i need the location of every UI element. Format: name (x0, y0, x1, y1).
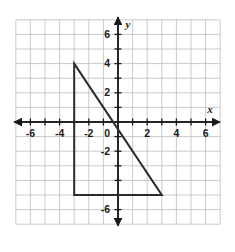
x-tick-label: -6 (26, 127, 35, 139)
x-tick-label: 2 (144, 127, 150, 139)
y-tick-label: -2 (101, 145, 110, 157)
x-tick-label: 4 (173, 127, 179, 139)
y-tick-label: 4 (104, 57, 110, 69)
x-tick-label: -2 (84, 127, 93, 139)
y-tick-label: 6 (104, 28, 110, 40)
coordinate-plane-figure: -6 -4 -2 2 4 6 6 4 2 -2 -6 0 x y (0, 0, 235, 252)
x-tick-label: 6 (203, 127, 209, 139)
x-axis-label: x (206, 103, 213, 115)
y-tick-label: -6 (101, 203, 110, 215)
coordinate-plane-svg: -6 -4 -2 2 4 6 6 4 2 -2 -6 0 x y (0, 0, 235, 252)
y-tick-label: 2 (104, 86, 110, 98)
y-axis-label: y (124, 18, 131, 30)
x-tick-label: -4 (55, 127, 64, 139)
origin-label: 0 (104, 127, 110, 139)
